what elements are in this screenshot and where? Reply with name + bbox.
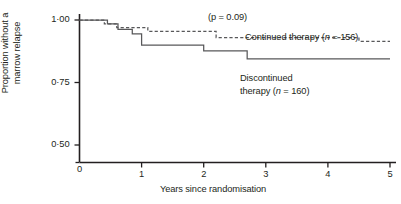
y-axis-title-line-1: Proportion without a [0,0,12,123]
legend-label-discontinued-therapy: Discontinued therapy (n = 160) [240,72,309,97]
legend-discontinued-prefix: therapy ( [240,86,276,96]
legend-continued-suffix: = 156) [330,32,359,42]
x-tick-label: 3 [257,169,275,179]
y-axis-title: Proportion without a marrow relapse [0,0,34,123]
x-axis-title: Years since randomisation [108,184,318,194]
legend-discontinued-suffix: = 160) [281,86,310,96]
x-tick-label: 2 [195,169,213,179]
legend-discontinued-line-1: Discontinued [240,72,309,85]
x-tick-label: 1 [133,169,151,179]
pvalue-annotation: (p = 0.09) [208,11,247,24]
legend-continued-prefix: Continued therapy ( [245,32,325,42]
x-tick-label: 5 [381,169,399,179]
y-tick-label: 0·75 [40,77,70,87]
legend-discontinued-line-2: therapy (n = 160) [240,85,309,98]
y-axis-title-line-2: marrow relapse [12,0,24,123]
y-tick-label: 0·50 [40,139,70,149]
x-tick-label: 4 [319,169,337,179]
kaplan-meier-chart: Proportion without a marrow relapse Year… [0,0,401,204]
y-tick-label: 1·00 [40,14,70,24]
x-tick-label: 0 [71,164,89,174]
legend-label-continued-therapy: Continued therapy (n = 156) [245,31,358,44]
